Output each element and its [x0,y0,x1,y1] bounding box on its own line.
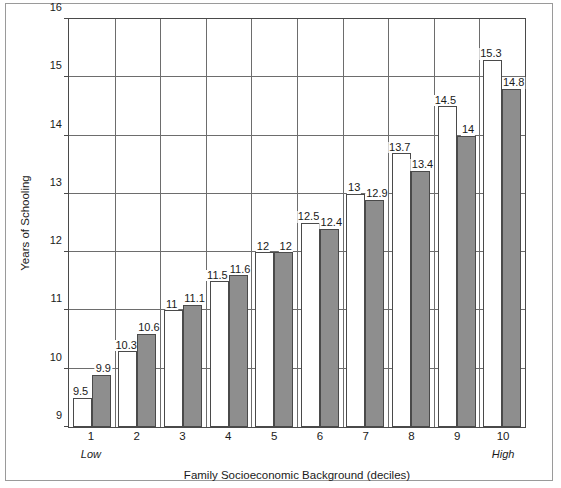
bar-gray-bar-1: 9.9 [92,375,111,427]
plot-area: Years of Schooling 910111213141516 9.59.… [68,18,526,428]
bar-value-label: 11.1 [183,293,206,305]
chart-figure: Years of Schooling 910111213141516 9.59.… [0,0,561,488]
x-tick-label: 6 [297,430,343,442]
bar-group: 1111.1 [160,19,206,427]
bar-value-label: 14.8 [502,77,525,89]
bar-group: 11.511.6 [206,19,252,427]
bar-white-bar-2: 10.3 [118,351,137,427]
bar-group: 10.310.6 [115,19,161,427]
bar-groups: 9.59.910.310.61111.111.511.6121212.512.4… [69,19,525,427]
bar-value-label: 11.5 [206,270,229,282]
bar-white-bar-7: 13 [346,194,365,427]
bar-group: 12.512.4 [297,19,343,427]
bar-value-label: 10.3 [114,340,137,352]
bar-white-bar-3: 11 [164,310,183,427]
bar-gray-bar-2: 10.6 [137,334,156,427]
bar-group: 9.59.9 [69,19,115,427]
x-tick-label: 2 [114,430,160,442]
figure-border: Years of Schooling 910111213141516 9.59.… [5,3,553,481]
bar-value-label: 11.6 [229,264,252,276]
y-tick-label: 11 [51,292,62,304]
y-tick-label: 9 [56,409,62,421]
bar-white-bar-8: 13.7 [392,153,411,427]
bar-value-label: 12.5 [297,211,320,223]
bar-group: 1212 [251,19,297,427]
y-axis-label: Years of Schooling [19,175,31,270]
bar-group: 15.314.8 [479,19,525,427]
y-tick-label: 13 [50,176,62,188]
bar-white-bar-4: 11.5 [210,281,229,427]
x-annotation-low: Low [68,448,114,460]
x-tick-label: 5 [251,430,297,442]
x-axis-label: Family Socioeconomic Background (deciles… [68,469,526,481]
x-tick-label: 1 [68,430,114,442]
bar-group: 14.514 [434,19,480,427]
bar-value-label: 10.6 [137,322,160,334]
bar-white-bar-5: 12 [255,252,274,427]
x-tick-label: 9 [434,430,480,442]
bar-gray-bar-5: 12 [274,252,293,427]
x-tick-label: 3 [160,430,206,442]
bar-white-bar-9: 14.5 [438,106,457,427]
bar-value-label: 14.5 [434,95,457,107]
bar-value-label: 12 [279,241,293,253]
x-axis-endpoint-annotations: LowHigh [68,448,526,460]
bar-value-label: 14 [461,124,475,136]
bar-gray-bar-4: 11.6 [229,275,248,427]
bar-value-label: 13.7 [388,142,411,154]
bar-value-label: 12.9 [365,188,388,200]
bar-value-label: 9.5 [72,386,89,398]
bar-value-label: 12.4 [320,217,343,229]
bar-gray-bar-9: 14 [457,136,476,427]
bar-value-label: 9.9 [95,363,112,375]
bar-gray-bar-7: 12.9 [365,200,384,427]
bar-gray-bar-8: 13.4 [411,171,430,427]
x-axis-ticks: 12345678910 [68,430,526,442]
bar-white-bar-1: 9.5 [73,398,92,427]
x-tick-label: 7 [343,430,389,442]
bar-value-label: 12 [256,241,270,253]
y-tick-label: 16 [50,1,62,13]
y-tick-label: 12 [50,234,62,246]
x-tick-label: 8 [389,430,435,442]
bar-gray-bar-3: 11.1 [183,305,202,427]
bar-gray-bar-10: 14.8 [502,89,521,427]
x-annotation-high: High [480,448,526,460]
bar-gray-bar-6: 12.4 [320,229,339,427]
bar-group: 1312.9 [343,19,389,427]
bar-value-label: 11 [165,299,178,311]
bar-white-bar-10: 15.3 [483,60,502,427]
bar-value-label: 13.4 [411,159,434,171]
bar-white-bar-6: 12.5 [301,223,320,427]
bar-value-label: 15.3 [479,48,502,60]
y-tick-label: 15 [50,59,62,71]
x-tick-label: 4 [205,430,251,442]
x-tick-label: 10 [480,430,526,442]
y-tick-label: 10 [50,351,62,363]
bar-value-label: 13 [347,182,361,194]
bar-group: 13.713.4 [388,19,434,427]
y-tick-label: 14 [50,118,62,130]
